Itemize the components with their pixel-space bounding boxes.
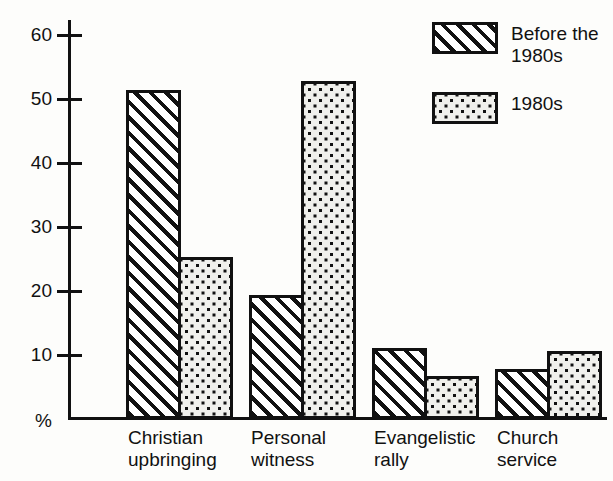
legend-swatch-dots-icon [432, 92, 498, 124]
category-label-3: Evangelistic rally [374, 427, 475, 472]
legend-label-before-the-1980s: Before the 1980s [511, 22, 599, 68]
bar-1980s-group-2 [301, 81, 356, 419]
bar-before-1980s-group-1 [126, 90, 181, 419]
category-label-4: Church service [497, 427, 558, 472]
legend-item-before-the-1980s: Before the 1980s [432, 22, 612, 68]
legend-swatch-hatch-icon [432, 22, 498, 54]
chart-legend: Before the 1980s 1980s [432, 22, 612, 148]
chart-page: 102030405060 % Christian upbringingPerso… [0, 0, 613, 481]
bar-chart-plot: 102030405060 % Christian upbringingPerso… [0, 0, 613, 481]
bar-1980s-group-1 [178, 257, 233, 419]
bar-before-1980s-group-3 [372, 348, 427, 419]
legend-label-1980s: 1980s [511, 92, 563, 115]
category-label-1: Christian upbringing [128, 427, 217, 472]
bar-before-1980s-group-4 [495, 369, 550, 419]
bar-1980s-group-3 [424, 376, 479, 419]
bar-before-1980s-group-2 [249, 295, 304, 419]
bar-1980s-group-4 [547, 351, 602, 419]
category-label-2: Personal witness [251, 427, 326, 472]
legend-item-1980s: 1980s [432, 92, 612, 124]
